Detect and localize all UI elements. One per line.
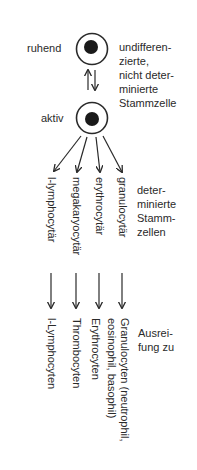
description-line: minierte [119,82,176,96]
description-line: Stamm- [137,211,176,225]
description-line: minierte [137,197,176,211]
reversible-arrows-icon [88,70,95,90]
description-line: nicht deter- [119,68,176,82]
lineage-erythrocytic: erythrocytär [94,177,105,235]
active-stem-cell-icon [77,103,108,134]
determined-description: deter- minierte Stamm- zellen [137,183,176,239]
description-line: zierte, [119,54,176,68]
product-thrombocytes: Thrombocyten [71,318,82,388]
product-granulocytes-line2: eosinophil, basophil) [106,318,117,418]
lineage-megakaryocytic: megakaryocytär [71,177,82,255]
resting-stem-cell-icon [77,34,108,65]
active-label: aktiv [41,112,64,125]
resting-label: ruhend [27,42,61,55]
description-line: zellen [137,225,176,239]
lineage-granulocytic: granulocytär [117,177,128,238]
description-line: Stammzelle [119,96,176,110]
product-granulocytes-line1: Granulocyten (neutrophil, [119,318,130,442]
differentiation-arrows [54,136,122,172]
description-line: Ausrei- [138,326,174,340]
description-line: undifferen- [119,40,176,54]
maturation-description: Ausrei- fung zu [138,326,174,354]
product-lymphocytes: l-Lymphocyten [46,318,57,389]
product-erythrocytes: Erythrocyten [90,318,101,380]
description-line: deter- [137,183,176,197]
description-line: fung zu [138,340,174,354]
stem-cell-description: undifferen- zierte, nicht deter- miniert… [119,40,176,110]
maturation-arrows [51,273,122,308]
lineage-lymphocytic: l-lymphocytär [46,177,57,242]
